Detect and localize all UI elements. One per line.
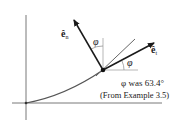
phi-upper-label: φ	[93, 36, 99, 47]
phi-arc-lower	[122, 61, 124, 70]
unit-normal-vector	[74, 20, 103, 70]
normal-tangent-diagram: ên êt φ φ φ was 63.4° (From Example 3.5)	[0, 0, 193, 124]
en-label: ên	[61, 28, 68, 40]
phi-note-line2: (From Example 3.5)	[100, 90, 169, 100]
trajectory-curve	[26, 70, 103, 103]
phi-note-line1: φ was 63.4°	[121, 78, 164, 88]
et-label: êt	[151, 44, 157, 56]
origin-point	[25, 102, 28, 105]
curve-point	[101, 68, 106, 73]
phi-lower-label: φ	[127, 57, 133, 68]
